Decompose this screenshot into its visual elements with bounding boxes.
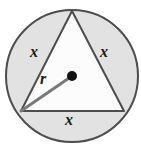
geometry-figure: x x x r bbox=[0, 0, 141, 157]
side-label-right: x bbox=[100, 44, 108, 60]
side-label-bottom: x bbox=[65, 112, 73, 128]
radius-label: r bbox=[40, 71, 46, 87]
side-label-left: x bbox=[30, 44, 38, 60]
figure-canvas bbox=[0, 0, 141, 157]
center-point-dot bbox=[67, 71, 77, 81]
